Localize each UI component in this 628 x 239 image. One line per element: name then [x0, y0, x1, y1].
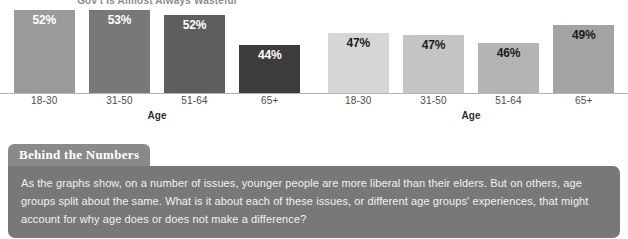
tick-label: 65+ [553, 95, 614, 106]
bar-value-label: 47% [403, 38, 464, 52]
chart-right: 47% 47% 46% 49% [314, 0, 628, 130]
x-axis-line [0, 93, 314, 94]
tick-label: 31-50 [403, 95, 464, 106]
bar-value-label: 44% [239, 48, 300, 62]
bar-slot: 47% [403, 35, 464, 93]
bar-slot: 52% [14, 10, 75, 93]
bar-value-label: 52% [14, 13, 75, 27]
chart-left-plot: 52% 53% 52% 44% [14, 4, 300, 93]
tick-label: 31-50 [89, 95, 150, 106]
bar: 44% [239, 45, 300, 93]
tick-label: 18-30 [14, 95, 75, 106]
bar-slot: 47% [328, 33, 389, 93]
bar-slot: 44% [239, 45, 300, 93]
bar-slot: 53% [89, 10, 150, 93]
tick-label: 18-30 [328, 95, 389, 106]
callout-body-text: As the graphs show, on a number of issue… [8, 166, 620, 238]
bar-value-label: 49% [553, 28, 614, 42]
chart-right-bars: 47% 47% 46% 49% [328, 4, 614, 93]
chart-left-tick-labels: 18-30 31-50 51-64 65+ [14, 95, 300, 106]
x-axis-line [314, 93, 628, 94]
behind-the-numbers-callout: Behind the Numbers As the graphs show, o… [8, 144, 620, 238]
bar: 49% [553, 25, 614, 93]
bar-slot: 46% [478, 43, 539, 93]
chart-left-bars: 52% 53% 52% 44% [14, 4, 300, 93]
bar: 52% [164, 15, 225, 93]
bar-value-label: 47% [328, 36, 389, 50]
tick-label: 51-64 [164, 95, 225, 106]
bar: 52% [14, 10, 75, 93]
bar: 53% [89, 10, 150, 93]
bar-value-label: 46% [478, 46, 539, 60]
chart-right-tick-labels: 18-30 31-50 51-64 65+ [328, 95, 614, 106]
bar: 46% [478, 43, 539, 93]
chart-left: Gov't Is Almost Always Wasteful 52% 53% … [0, 0, 314, 130]
bar-slot: 49% [553, 25, 614, 93]
bar-value-label: 52% [164, 18, 225, 32]
chart-right-axis-title: Age [314, 110, 628, 121]
bar-value-label: 53% [89, 13, 150, 27]
charts-region: Gov't Is Almost Always Wasteful 52% 53% … [0, 0, 628, 130]
callout-tab-label: Behind the Numbers [8, 144, 150, 166]
tick-label: 51-64 [478, 95, 539, 106]
chart-left-axis-title: Age [0, 110, 314, 121]
bar-slot: 52% [164, 15, 225, 93]
bar: 47% [328, 33, 389, 93]
tick-label: 65+ [239, 95, 300, 106]
bar: 47% [403, 35, 464, 93]
chart-right-plot: 47% 47% 46% 49% [328, 4, 614, 93]
